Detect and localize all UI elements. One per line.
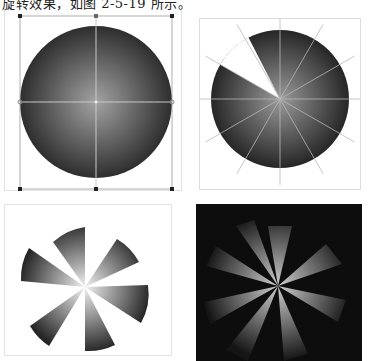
pinwheel-wedges (21, 227, 149, 351)
figure-step-1-selected-circle (4, 10, 182, 191)
light-rays-graphic (196, 204, 362, 361)
figure-step-4-light-rays (196, 204, 362, 361)
figure-step-3-pinwheel (4, 204, 172, 356)
figure-step-2-wedge-circle (199, 18, 361, 190)
gradient-circle-graphic (5, 10, 183, 191)
pinwheel-graphic (5, 205, 173, 357)
light-rays (204, 220, 346, 361)
wedge-circle-graphic (200, 19, 362, 191)
